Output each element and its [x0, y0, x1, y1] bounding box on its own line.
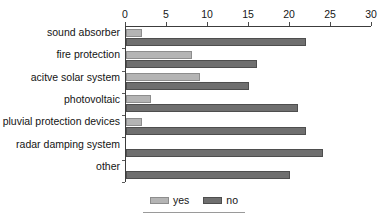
- bar-no: [126, 60, 257, 68]
- bar-group: [125, 137, 371, 159]
- bar-no: [126, 171, 290, 179]
- bar-yes: [126, 73, 200, 81]
- x-axis-labels: 051015202530: [0, 0, 388, 24]
- y-axis-category-label: sound absorber: [47, 26, 120, 38]
- bar-no: [126, 104, 298, 112]
- legend-label: no: [226, 195, 238, 206]
- bar-group: [125, 26, 371, 48]
- legend-item[interactable]: yes: [150, 191, 189, 209]
- chart-legend: yesno: [0, 190, 388, 213]
- bar-no: [126, 149, 323, 157]
- x-axis-tick-label: 20: [283, 9, 295, 20]
- y-axis-category-label: radar damping system: [16, 138, 120, 150]
- bar-yes: [126, 29, 142, 37]
- x-axis-tick-mark: [371, 22, 372, 26]
- bar-yes: [126, 118, 142, 126]
- y-axis-category-label: fire protection: [56, 48, 120, 60]
- plot-area: [125, 26, 371, 182]
- legend-item[interactable]: no: [203, 191, 238, 209]
- bar-yes: [126, 51, 192, 59]
- bar-group: [125, 48, 371, 70]
- x-axis-tick-label: 5: [163, 9, 169, 20]
- bar-no: [126, 127, 306, 135]
- y-axis-category-label: pluvial protection devices: [3, 115, 120, 127]
- bar-group: [125, 93, 371, 115]
- bar-yes: [126, 95, 151, 103]
- y-axis-category-label: photovoltaic: [64, 93, 120, 105]
- y-axis-tick-mark: [122, 182, 125, 183]
- legend-inner: yesno: [143, 190, 245, 213]
- bar-no: [126, 38, 306, 46]
- bar-group: [125, 71, 371, 93]
- x-axis-tick-label: 15: [242, 9, 254, 20]
- bar-chart: 051015202530 yesno sound absorberfire pr…: [0, 0, 388, 218]
- bar-group: [125, 115, 371, 137]
- y-axis-category-label: other: [96, 160, 120, 172]
- bar-group: [125, 160, 371, 182]
- x-axis-tick-label: 25: [324, 9, 336, 20]
- bar-no: [126, 82, 249, 90]
- y-axis-category-label: acitve solar system: [31, 71, 120, 83]
- x-axis-tick-label: 10: [201, 9, 213, 20]
- legend-label: yes: [173, 195, 189, 206]
- legend-swatch-icon: [203, 197, 222, 204]
- legend-swatch-icon: [150, 197, 169, 204]
- x-axis-tick-label: 30: [365, 9, 377, 20]
- x-axis-tick-label: 0: [122, 9, 128, 20]
